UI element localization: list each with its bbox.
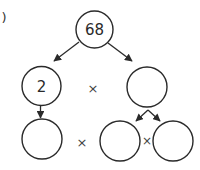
arrow-root-to-mid-right xyxy=(108,43,132,61)
node-mid-right-circle[interactable] xyxy=(127,67,167,107)
node-root-value: 68 xyxy=(85,23,104,38)
multiply-sign-bottom-left: × xyxy=(77,136,88,149)
arrow-mid-right-to-bottom-middle xyxy=(136,110,148,121)
node-bottom-left-circle[interactable] xyxy=(22,119,62,159)
factor-tree-diagram: ) 68 2 × × × xyxy=(0,0,200,170)
arrow-mid-right-to-bottom-right xyxy=(148,110,160,121)
node-mid-left-value: 2 xyxy=(37,80,47,95)
node-bottom-right-circle[interactable] xyxy=(153,121,193,161)
multiply-sign-bottom-right: × xyxy=(142,135,152,147)
arrow-root-to-mid-left xyxy=(54,42,79,61)
multiply-sign-middle-row: × xyxy=(88,82,99,95)
node-bottom-middle-circle[interactable] xyxy=(100,121,140,161)
